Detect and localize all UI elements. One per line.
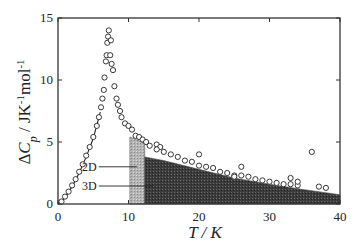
data-point-marker (260, 178, 265, 183)
data-point-marker (117, 108, 122, 113)
data-point-marker (175, 154, 180, 159)
y-tick-label: 10 (40, 72, 53, 87)
data-point-marker (109, 61, 114, 66)
data-point-marker (168, 152, 173, 157)
data-point-marker (70, 183, 75, 188)
data-point-marker (211, 165, 216, 170)
data-point-marker (218, 169, 223, 174)
data-point-marker (129, 127, 134, 132)
data-point-marker (110, 68, 115, 73)
data-point-marker (232, 174, 237, 179)
data-point-marker (108, 53, 113, 58)
data-point-marker (288, 175, 293, 180)
data-point-marker (295, 179, 300, 184)
data-point-marker (84, 153, 89, 158)
x-tick-label: 20 (193, 209, 206, 224)
data-point-marker (154, 147, 159, 152)
data-point-marker (281, 182, 286, 187)
data-point-marker (253, 177, 258, 182)
data-point-marker (288, 182, 293, 187)
x-tick-label: 0 (55, 209, 62, 224)
data-point-marker (323, 185, 328, 190)
x-tick-label: 30 (263, 209, 276, 224)
data-point-marker (239, 173, 244, 178)
data-point-marker (309, 149, 314, 154)
data-point-marker (114, 96, 119, 101)
data-point-marker (73, 177, 78, 182)
chart: 010203040051015 2D3D T / K ΔCp / JK-1mol… (0, 0, 357, 247)
annotation-label-2d: 2D (82, 160, 97, 174)
data-point-marker (196, 152, 201, 157)
y-tick-label: 15 (40, 10, 53, 25)
data-point-marker (204, 164, 209, 169)
data-point-marker (189, 159, 194, 164)
data-point-marker (103, 59, 108, 64)
x-axis-label: T / K (188, 223, 223, 242)
data-point-marker (239, 164, 244, 169)
data-point-marker (101, 87, 106, 92)
x-tick-label: 10 (122, 209, 135, 224)
annotation-label-3d: 3D (82, 179, 97, 193)
data-point-marker (182, 158, 187, 163)
data-point-marker (98, 105, 103, 110)
data-point-marker (77, 169, 82, 174)
data-point-marker (267, 179, 272, 184)
data-point-marker (87, 144, 92, 149)
data-point-marker (147, 143, 152, 148)
data-point-marker (115, 102, 120, 107)
data-point-marker (106, 28, 111, 33)
data-point-marker (96, 115, 101, 120)
x-tick-label: 40 (334, 209, 347, 224)
data-point-marker (62, 194, 67, 199)
data-point-marker (108, 38, 113, 43)
data-point-marker (161, 149, 166, 154)
y-tick-label: 5 (47, 134, 54, 149)
y-axis-label: ΔCp / JK-1mol-1 (14, 59, 40, 164)
area-2d (130, 137, 145, 204)
data-point-marker (316, 184, 321, 189)
data-point-marker (59, 199, 64, 204)
data-point-marker (112, 84, 117, 89)
data-point-marker (274, 180, 279, 185)
data-point-marker (196, 163, 201, 168)
data-point-marker (94, 123, 99, 128)
data-point-marker (102, 75, 107, 80)
data-point-marker (225, 170, 230, 175)
data-point-marker (100, 96, 105, 101)
y-tick-label: 0 (47, 196, 54, 211)
data-point-marker (246, 174, 251, 179)
data-point-marker (119, 115, 124, 120)
data-point-marker (66, 189, 71, 194)
data-point-marker (91, 134, 96, 139)
